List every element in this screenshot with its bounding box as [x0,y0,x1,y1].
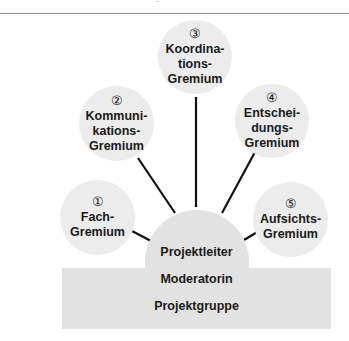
number-2-icon: ② [111,94,123,108]
committee-label-line: dungs- [251,121,293,136]
committee-label-line: Gremium [245,136,300,151]
committee-fach-gremium: ① Fach- Gremium [60,180,135,255]
number-1-icon: ① [92,195,104,209]
number-5-icon: ⑤ [285,197,297,211]
number-3-icon: ③ [189,27,201,41]
committee-kommunikations-gremium: ② Kommuni- kations- Gremium [79,86,154,161]
committee-label-line: Gremium [263,227,318,242]
committee-label-line: Gremium [89,139,144,154]
committee-label-line: tions- [178,57,212,72]
committee-label-line: Gremium [70,225,125,240]
committee-label-line: Aufsichts- [260,212,321,227]
connector-1 [132,231,151,241]
committee-label-line: Kommuni- [86,109,148,124]
committee-label-line: Entschei- [244,106,300,121]
connector-4 [222,152,255,213]
projektgruppe-label: Projektgruppe [62,299,331,313]
committee-label-line: Fach- [81,210,114,225]
number-4-icon: ④ [266,91,278,105]
committee-koordinations-gremium: ③ Koordina- tions- Gremium [158,20,232,94]
committee-label-line: kations- [93,124,141,139]
connector-2 [138,158,175,213]
committee-label-line: Koordina- [165,42,224,57]
committee-label-line: Gremium [168,72,223,87]
committee-aufsichts-gremium: ⑤ Aufsichts- Gremium [253,182,328,257]
moderatorin-label: Moderatorin [62,272,331,286]
committee-entscheidungs-gremium: ④ Entschei- dungs- Gremium [235,84,309,158]
